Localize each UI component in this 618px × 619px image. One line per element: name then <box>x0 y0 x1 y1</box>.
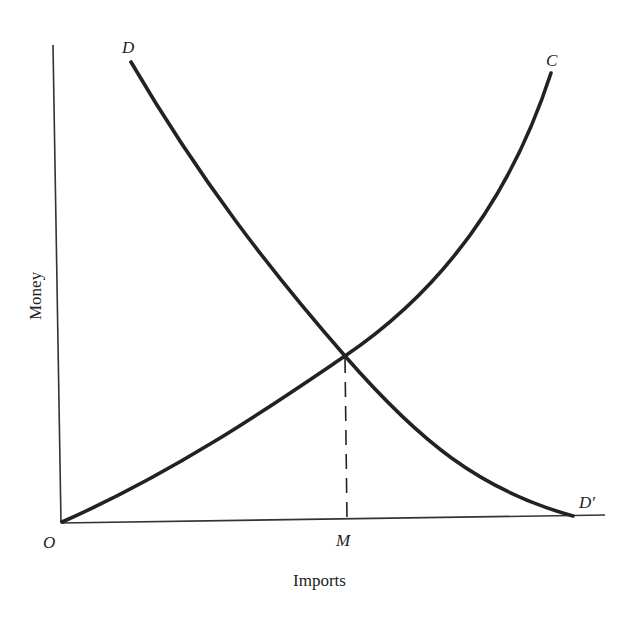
label-d: D <box>121 38 135 57</box>
x-axis <box>61 515 605 523</box>
y-axis <box>53 45 61 523</box>
label-m: M <box>335 531 351 550</box>
x-axis-title: Imports <box>293 571 346 590</box>
curve-c <box>62 73 551 522</box>
label-origin: O <box>43 533 55 552</box>
supply-demand-chart: D C D′ O M Imports Money <box>0 0 618 619</box>
dashed-line-m <box>345 358 347 520</box>
label-d-prime: D′ <box>578 493 595 512</box>
y-axis-title: Money <box>26 271 45 320</box>
label-c: C <box>546 51 558 70</box>
curve-d <box>131 62 573 516</box>
